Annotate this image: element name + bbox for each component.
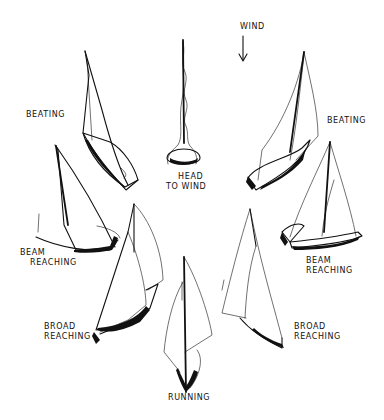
boat-beating-right bbox=[246, 52, 318, 190]
boat-head-to-wind bbox=[167, 40, 200, 165]
boat-broad-reaching-right bbox=[222, 209, 284, 348]
label-beam-reaching-left-line1: BEAM bbox=[20, 248, 77, 258]
label-broad-reaching-right: BROAD REACHING bbox=[294, 322, 341, 342]
label-head-to-wind: HEAD TO WIND bbox=[172, 172, 206, 192]
label-beam-reaching-right: BEAM REACHING bbox=[306, 256, 353, 276]
label-head-to-wind-line1: HEAD bbox=[172, 172, 206, 182]
wind-label: WIND bbox=[240, 22, 265, 32]
boat-beating-left bbox=[83, 51, 138, 190]
label-beating-left: BEATING bbox=[26, 110, 65, 120]
label-broad-reaching-left-line2: REACHING bbox=[44, 332, 91, 342]
label-beam-reaching-left-line2: REACHING bbox=[20, 258, 77, 268]
label-broad-reaching-right-line2: REACHING bbox=[294, 332, 341, 342]
label-head-to-wind-line2: TO WIND bbox=[166, 182, 206, 192]
boat-beam-reaching-right bbox=[280, 142, 362, 250]
sailboat-drawings bbox=[0, 0, 384, 420]
points-of-sail-diagram: WIND HEAD TO WIND BEATING BEATING BEAM R… bbox=[0, 0, 384, 420]
boat-broad-reaching-left bbox=[92, 204, 163, 344]
label-broad-reaching-left: BROAD REACHING bbox=[44, 322, 91, 342]
label-broad-reaching-left-line1: BROAD bbox=[44, 322, 91, 332]
boat-running bbox=[164, 257, 212, 392]
label-broad-reaching-right-line1: BROAD bbox=[294, 322, 341, 332]
label-beam-reaching-right-line2: REACHING bbox=[306, 266, 353, 276]
boat-beam-reaching-left bbox=[36, 145, 120, 253]
wind-arrow-icon bbox=[239, 36, 247, 61]
label-beam-reaching-left: BEAM REACHING bbox=[20, 248, 77, 268]
label-beating-right: BEATING bbox=[327, 116, 366, 126]
label-beam-reaching-right-line1: BEAM bbox=[306, 256, 353, 266]
label-running: RUNNING bbox=[168, 393, 210, 403]
